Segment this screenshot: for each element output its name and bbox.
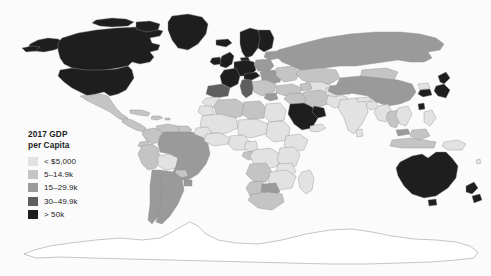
legend-item-under-5000[interactable]: < $5,000 <box>28 155 114 168</box>
map-legend: 2017 GDP per Capita < $5,000 5–14.9k 15–… <box>28 129 114 221</box>
legend-label-2: 15–29.9k <box>44 183 78 192</box>
legend-item-15-29-9k[interactable]: 15–29.9k <box>28 181 114 194</box>
region-puerto-rico <box>165 118 170 120</box>
legend-swatch-1 <box>28 170 38 179</box>
legend-item-5-14-9k[interactable]: 5–14.9k <box>28 168 114 181</box>
legend-label-0: < $5,000 <box>44 157 76 166</box>
region-fiji <box>476 159 481 164</box>
region-tasmania <box>428 199 437 206</box>
legend-label-3: 30–49.9k <box>44 197 78 206</box>
legend-label-1: 5–14.9k <box>44 170 73 179</box>
legend-label-4: > 50k <box>44 210 64 219</box>
region-taiwan <box>418 103 425 110</box>
region-nepal-bhutan <box>356 97 372 102</box>
legend-swatch-3 <box>28 197 38 206</box>
world-choropleth-map: 2017 GDP per Capita < $5,000 5–14.9k 15–… <box>0 0 491 276</box>
region-uruguay <box>184 180 192 186</box>
region-sri-lanka <box>356 129 363 137</box>
legend-title: 2017 GDP per Capita <box>28 129 114 150</box>
legend-swatch-4 <box>28 210 38 219</box>
legend-swatch-2 <box>28 183 38 192</box>
legend-item-over-50k[interactable]: > 50k <box>28 208 114 221</box>
region-egypt[interactable] <box>264 103 286 122</box>
legend-swatch-0 <box>28 157 38 166</box>
legend-item-30-49-9k[interactable]: 30–49.9k <box>28 195 114 208</box>
